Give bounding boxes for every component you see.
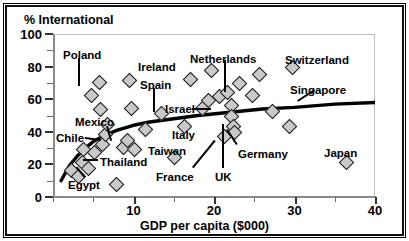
label-spain: Spain [140,80,171,92]
label-israel: Israel [165,104,195,116]
y-axis-line [53,34,55,198]
x-tick-label: 30 [275,204,315,217]
x-axis-title: GDP per capita ($000) [0,219,409,233]
x-tick-label: 40 [355,204,395,217]
x-tick [335,197,336,202]
y-tick-label: 100 [2,28,42,41]
leader-line-israel [192,108,211,110]
y-tick-label: 20 [2,158,42,171]
label-switzerland: Switzerland [285,55,349,67]
leader-line-spain [153,88,155,112]
y-tick [47,148,53,149]
x-tick [254,197,255,202]
label-taiwan: Taiwan [148,146,186,158]
leader-line-netherlands [224,60,226,92]
y-tick-label: 40 [2,126,42,139]
label-italy: Italy [172,130,195,142]
label-france: France [156,172,194,184]
x-tick-label: 10 [114,204,154,217]
y-tick [47,50,53,51]
label-egypt: Egypt [68,180,100,192]
label-chile: Chile [56,133,84,145]
y-tick [47,116,53,117]
x-tick [53,197,54,202]
label-netherlands: Netherlands [190,54,256,66]
x-tick [174,197,175,202]
leader-line-poland [78,58,80,86]
label-thailand: Thailand [100,157,147,169]
y-tick-label: 0 [2,191,42,204]
label-poland: Poland [63,50,101,62]
y-axis-title: % International [24,13,114,27]
y-tick-label: 60 [2,93,42,106]
y-tick [47,83,53,84]
y-tick [45,196,53,198]
chart-figure: % International 020406080100 10203040 Po… [0,0,409,241]
label-japan: Japan [324,148,357,160]
leader-line-uk [222,124,224,168]
y-tick [45,98,53,100]
y-tick [45,66,53,68]
label-germany: Germany [238,149,288,161]
label-singapore: Singapore [290,85,346,97]
label-uk: UK [215,172,232,184]
label-ireland: Ireland [138,62,176,74]
y-tick [45,131,53,133]
x-tick [93,197,94,202]
y-tick-label: 80 [2,61,42,74]
y-tick [45,163,53,165]
leader-line-thailand [83,159,98,161]
x-tick-label: 20 [194,204,234,217]
y-tick [45,33,53,35]
y-tick [47,181,53,182]
